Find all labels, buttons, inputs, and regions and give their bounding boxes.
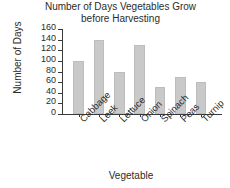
y-axis-label: Number of Days	[12, 13, 23, 103]
y-axis-tick	[58, 40, 62, 41]
y-axis-tick	[58, 72, 62, 73]
y-axis-tick	[58, 93, 62, 94]
y-axis-tick-label: 20	[34, 97, 56, 106]
x-axis-label: Vegetable	[40, 170, 222, 181]
y-axis-tick	[58, 61, 62, 62]
y-axis-tick	[58, 114, 62, 115]
y-axis-tick-label: 40	[34, 87, 56, 96]
bar	[73, 61, 84, 114]
y-axis-tick	[58, 103, 62, 104]
y-axis-tick	[58, 50, 62, 51]
y-axis-tick-label: 80	[34, 66, 56, 75]
plot-area: 020406080100120140160 CabbageLeekLettuce…	[62, 29, 222, 114]
y-axis-tick-label: 160	[34, 23, 56, 32]
y-axis-tick-label: 100	[34, 55, 56, 64]
y-axis-tick-label: 60	[34, 76, 56, 85]
y-axis-line	[62, 29, 63, 114]
y-axis-tick-label: 0	[34, 108, 56, 117]
y-axis-tick	[58, 82, 62, 83]
y-axis-tick-label: 120	[34, 44, 56, 53]
y-axis-tick-label: 140	[34, 34, 56, 43]
y-axis-tick	[58, 29, 62, 30]
bar-chart-figure: Number of Days Vegetables Grow before Ha…	[0, 0, 230, 188]
